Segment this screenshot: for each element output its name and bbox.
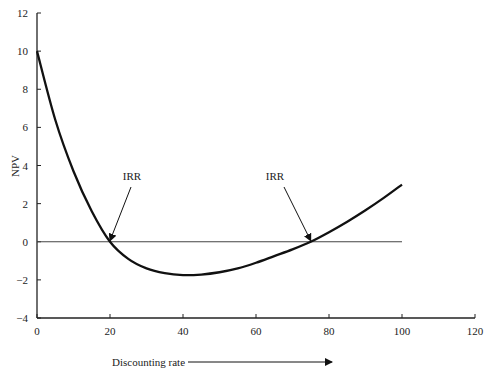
y-axis-title: NPV xyxy=(9,155,21,177)
irr-arrow xyxy=(110,187,131,241)
x-tick-label: 0 xyxy=(34,325,40,337)
irr-arrow xyxy=(284,187,311,241)
y-tick-label: 12 xyxy=(17,7,28,19)
x-axis-title: Discounting rate xyxy=(112,356,185,368)
y-tick-label: −4 xyxy=(16,312,28,324)
irr-annotations: IRRIRR xyxy=(110,170,311,241)
data-series xyxy=(37,51,402,275)
x-tick-label: 60 xyxy=(251,325,263,337)
x-tick-label: 100 xyxy=(394,325,411,337)
axes xyxy=(37,13,475,318)
irr-label: IRR xyxy=(266,170,285,182)
y-tick-label: 10 xyxy=(17,45,29,57)
irr-label: IRR xyxy=(123,170,142,182)
npv-chart: −4−2024681012 020406080100120 IRRIRR NPV… xyxy=(0,0,493,382)
x-tick-label: 40 xyxy=(178,325,190,337)
x-tick-label: 80 xyxy=(324,325,336,337)
y-tick-label: −2 xyxy=(16,274,28,286)
x-tick-label: 120 xyxy=(467,325,484,337)
y-tick-label: 4 xyxy=(23,160,29,172)
y-tick-label: 2 xyxy=(23,198,29,210)
y-tick-label: 6 xyxy=(23,121,29,133)
x-tick-label: 20 xyxy=(105,325,117,337)
y-tick-label: 8 xyxy=(23,83,29,95)
y-tick-label: 0 xyxy=(23,236,29,248)
